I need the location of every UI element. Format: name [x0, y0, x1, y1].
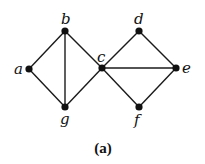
node-label-c: c [97, 48, 106, 66]
edge-c-f [102, 68, 139, 107]
node-e [172, 64, 179, 71]
node-label-b: b [61, 10, 71, 28]
nodes [25, 27, 179, 110]
node-label-f: f [133, 111, 142, 129]
node-label-a: a [14, 60, 23, 78]
edge-a-g [29, 69, 65, 107]
node-label-e: e [182, 59, 191, 77]
node-b [61, 27, 68, 34]
node-d [135, 27, 142, 34]
node-label-g: g [60, 110, 70, 128]
edge-g-c [65, 68, 102, 107]
node-label-d: d [134, 10, 144, 28]
node-f [135, 103, 142, 110]
node-a [25, 65, 32, 72]
edge-c-d [102, 31, 139, 68]
edge-d-e [139, 31, 176, 68]
edge-f-e [139, 68, 176, 107]
edge-a-b [29, 31, 65, 69]
figure-caption: (a) [94, 140, 112, 157]
graph-diagram: abcdefg (a) [0, 0, 205, 164]
